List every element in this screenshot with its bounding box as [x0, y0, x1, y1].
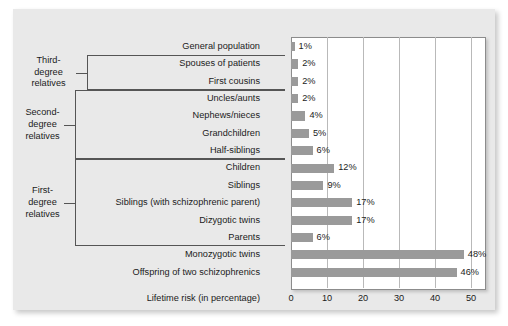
figure-root: General population1%Spouses of patients2…	[0, 0, 508, 326]
x-tick-50: 50	[466, 293, 476, 303]
bar-value-label: 2%	[302, 90, 315, 107]
bar	[291, 181, 323, 190]
group-bracket	[75, 159, 285, 246]
bar	[291, 216, 352, 225]
x-axis-title: Lifetime risk (in percentage)	[147, 293, 260, 303]
bar	[291, 59, 298, 68]
bar-row: Monozygotic twins48%	[13, 246, 495, 263]
bar	[291, 146, 313, 155]
category-label: General population	[182, 38, 260, 55]
group-label: First-degreerelatives	[21, 185, 64, 220]
group-label: Second-degreerelatives	[21, 107, 64, 142]
bar	[291, 233, 313, 242]
bar	[291, 164, 334, 173]
bar	[291, 129, 309, 138]
bar-value-label: 6%	[317, 142, 330, 159]
x-tick-0: 0	[288, 293, 293, 303]
x-tick-40: 40	[430, 293, 440, 303]
bar-value-label: 17%	[356, 212, 374, 229]
bar-value-label: 9%	[327, 177, 340, 194]
group-bracket	[75, 90, 285, 159]
group-bracket	[87, 55, 285, 90]
bar-value-label: 2%	[302, 73, 315, 90]
bar-value-label: 12%	[338, 159, 356, 176]
group-bracket-stub	[76, 73, 87, 74]
chart-panel: General population1%Spouses of patients2…	[13, 9, 495, 310]
bar-row: Offspring of two schizophrenics46%	[13, 264, 495, 281]
bar	[291, 250, 464, 259]
bar-value-label: 2%	[302, 55, 315, 72]
bar-value-label: 17%	[356, 194, 374, 211]
bar	[291, 42, 295, 51]
bar-value-label: 48%	[468, 246, 486, 263]
x-tick-10: 10	[322, 293, 332, 303]
bar	[291, 111, 305, 120]
bar	[291, 77, 298, 86]
bar-value-label: 1%	[299, 38, 312, 55]
bar	[291, 198, 352, 207]
bar-row: General population1%	[13, 38, 495, 55]
x-tick-20: 20	[358, 293, 368, 303]
group-bracket-stub	[64, 203, 75, 204]
bar	[291, 268, 457, 277]
x-tick-30: 30	[394, 293, 404, 303]
category-label: Monozygotic twins	[185, 246, 260, 263]
category-label: Offspring of two schizophrenics	[133, 264, 261, 281]
bar-value-label: 46%	[461, 264, 479, 281]
bar-value-label: 6%	[317, 229, 330, 246]
group-bracket-stub	[64, 125, 75, 126]
group-label: Third-degreerelatives	[21, 55, 76, 90]
bar-value-label: 4%	[309, 107, 322, 124]
bar	[291, 94, 298, 103]
bar-value-label: 5%	[313, 125, 326, 142]
